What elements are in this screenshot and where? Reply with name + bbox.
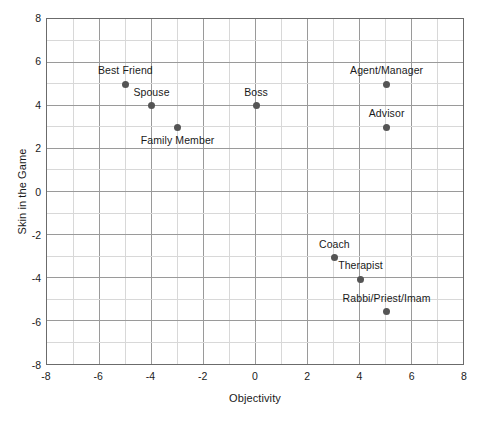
x-tick-label: 6 <box>392 370 432 382</box>
y-tick-label: -6 <box>11 316 41 328</box>
x-tick-label: 2 <box>287 370 327 382</box>
data-point-label: Family Member <box>141 134 215 146</box>
data-point-label: Coach <box>319 238 350 250</box>
y-tick-label: 8 <box>11 12 41 24</box>
data-point-label: Best Friend <box>98 64 153 76</box>
plot-area: Best FriendSpouseFamily MemberBossAgent/… <box>46 18 464 365</box>
y-axis-tick-labels: -8-6-4-202468 <box>8 18 41 365</box>
data-point-label: Agent/Manager <box>350 64 423 76</box>
data-point-label: Therapist <box>338 259 383 271</box>
x-tick-label: 0 <box>235 370 275 382</box>
x-tick-label: -2 <box>183 370 223 382</box>
y-tick-label: -2 <box>11 229 41 241</box>
data-point-label: Advisor <box>369 107 405 119</box>
data-point-label: Rabbi/Priest/Imam <box>343 292 431 304</box>
data-point-label: Spouse <box>133 86 169 98</box>
x-tick-label: -6 <box>78 370 118 382</box>
y-tick-label: 4 <box>11 99 41 111</box>
x-tick-label: 4 <box>340 370 380 382</box>
x-axis-title: Objectivity <box>46 392 464 404</box>
data-point-label: Boss <box>244 86 268 98</box>
scatter-chart-figure: Skin in the Game -8-6-4-202468 Best Frie… <box>0 0 492 425</box>
data-point-labels-layer: Best FriendSpouseFamily MemberBossAgent/… <box>47 19 463 364</box>
x-tick-label: -4 <box>131 370 171 382</box>
y-tick-label: -4 <box>11 272 41 284</box>
x-tick-label: 8 <box>444 370 484 382</box>
x-tick-label: -8 <box>26 370 66 382</box>
y-tick-label: 0 <box>11 186 41 198</box>
y-tick-label: 2 <box>11 142 41 154</box>
y-tick-label: 6 <box>11 55 41 67</box>
x-axis-tick-labels: -8-6-4-202468 <box>46 370 464 386</box>
